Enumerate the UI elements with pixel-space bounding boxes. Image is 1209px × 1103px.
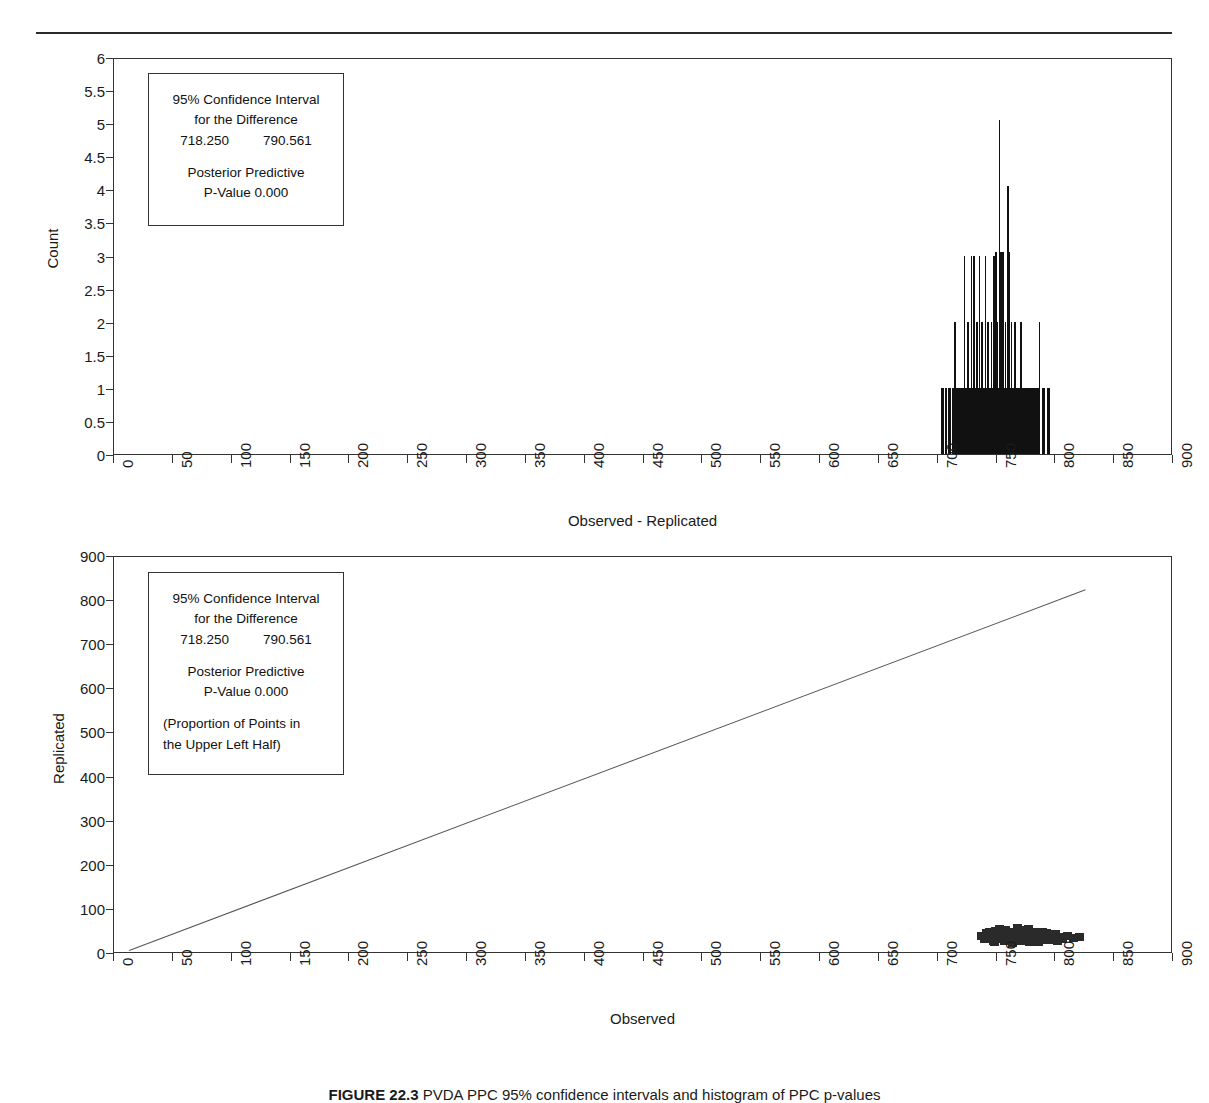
x-tick-mark bbox=[937, 953, 938, 961]
x-tick-mark bbox=[525, 953, 526, 961]
x-tick-label: 300 bbox=[472, 941, 489, 966]
x-tick-mark bbox=[643, 455, 644, 463]
x-tick-label: 300 bbox=[472, 443, 489, 468]
figure-caption: FIGURE 22.3 PVDA PPC 95% confidence inte… bbox=[0, 1086, 1209, 1103]
x-tick-mark bbox=[584, 953, 585, 961]
x-tick-label: 350 bbox=[531, 941, 548, 966]
x-tick-mark bbox=[172, 455, 173, 463]
proportion-note-line-1: (Proportion of Points in bbox=[149, 714, 343, 734]
x-tick-label: 400 bbox=[590, 443, 607, 468]
scatter-point bbox=[985, 928, 994, 936]
x-tick-mark bbox=[1113, 953, 1114, 961]
y-tick-label: 900 bbox=[57, 548, 105, 565]
ci-title-line-1: 95% Confidence Interval bbox=[149, 589, 343, 609]
y-tick-label: 1.5 bbox=[57, 347, 105, 364]
x-tick-mark bbox=[878, 953, 879, 961]
x-tick-label: 550 bbox=[766, 941, 783, 966]
y-tick-label: 500 bbox=[57, 724, 105, 741]
posterior-predictive-pvalue: P-Value 0.000 bbox=[149, 682, 343, 702]
y-tick-mark bbox=[106, 821, 113, 822]
histogram-annotation-box: 95% Confidence Interval for the Differen… bbox=[148, 73, 344, 226]
y-tick-mark bbox=[106, 455, 113, 456]
y-tick-mark bbox=[106, 556, 113, 557]
x-tick-mark bbox=[760, 455, 761, 463]
x-tick-mark bbox=[348, 455, 349, 463]
y-tick-mark bbox=[106, 389, 113, 390]
x-tick-mark bbox=[407, 953, 408, 961]
ci-lower-value: 718.250 bbox=[180, 630, 229, 650]
histogram-bar bbox=[973, 256, 975, 455]
x-tick-mark bbox=[643, 953, 644, 961]
x-tick-label: 500 bbox=[707, 941, 724, 966]
x-tick-label: 200 bbox=[354, 443, 371, 468]
y-tick-label: 4 bbox=[57, 182, 105, 199]
y-tick-label: 3 bbox=[57, 248, 105, 265]
scatter-y-axis-title: Replicated bbox=[50, 679, 67, 819]
x-tick-mark bbox=[760, 953, 761, 961]
x-tick-mark bbox=[407, 455, 408, 463]
x-tick-mark bbox=[996, 953, 997, 961]
x-tick-label: 500 bbox=[707, 443, 724, 468]
y-tick-label: 5 bbox=[57, 116, 105, 133]
y-tick-label: 400 bbox=[57, 768, 105, 785]
posterior-predictive-label: Posterior Predictive bbox=[149, 662, 343, 682]
histogram-bar bbox=[1039, 322, 1041, 454]
ci-title-line-1: 95% Confidence Interval bbox=[149, 90, 343, 110]
x-tick-label: 400 bbox=[590, 941, 607, 966]
y-tick-label: 6 bbox=[57, 50, 105, 67]
y-tick-label: 3.5 bbox=[57, 215, 105, 232]
y-tick-mark bbox=[106, 257, 113, 258]
x-tick-label: 750 bbox=[1002, 941, 1019, 966]
x-tick-mark bbox=[113, 455, 114, 463]
x-tick-label: 250 bbox=[413, 941, 430, 966]
scatter-point bbox=[1034, 938, 1043, 946]
scatter-point bbox=[1043, 936, 1052, 944]
y-tick-mark bbox=[106, 422, 113, 423]
y-tick-mark bbox=[106, 290, 113, 291]
x-tick-mark bbox=[937, 455, 938, 463]
x-tick-mark bbox=[819, 455, 820, 463]
ci-upper-value: 790.561 bbox=[263, 630, 312, 650]
y-tick-label: 800 bbox=[57, 592, 105, 609]
scatter-point bbox=[1020, 926, 1029, 934]
histogram-bar bbox=[1042, 388, 1045, 454]
y-tick-mark bbox=[106, 190, 113, 191]
scatter-point bbox=[990, 938, 999, 946]
x-tick-label: 0 bbox=[119, 460, 136, 468]
y-tick-mark bbox=[106, 644, 113, 645]
y-tick-mark bbox=[106, 953, 113, 954]
x-tick-mark bbox=[1172, 455, 1173, 463]
x-tick-label: 850 bbox=[1119, 941, 1136, 966]
y-tick-mark bbox=[106, 865, 113, 866]
histogram-bar bbox=[954, 322, 956, 454]
x-tick-label: 750 bbox=[1002, 443, 1019, 468]
x-tick-mark bbox=[466, 455, 467, 463]
y-tick-mark bbox=[106, 223, 113, 224]
posterior-predictive-label: Posterior Predictive bbox=[149, 163, 343, 183]
y-tick-label: 5.5 bbox=[57, 83, 105, 100]
y-tick-label: 200 bbox=[57, 856, 105, 873]
x-tick-label: 600 bbox=[825, 941, 842, 966]
x-tick-label: 650 bbox=[884, 941, 901, 966]
x-tick-mark bbox=[1113, 455, 1114, 463]
x-tick-label: 700 bbox=[943, 941, 960, 966]
x-tick-mark bbox=[231, 455, 232, 463]
y-tick-label: 600 bbox=[57, 680, 105, 697]
y-tick-label: 0.5 bbox=[57, 413, 105, 430]
y-tick-label: 700 bbox=[57, 636, 105, 653]
x-tick-label: 50 bbox=[178, 949, 195, 966]
ci-upper-value: 790.561 bbox=[263, 131, 312, 151]
y-tick-mark bbox=[106, 777, 113, 778]
ci-title-line-2: for the Difference bbox=[149, 609, 343, 629]
y-tick-mark bbox=[106, 732, 113, 733]
header-rule bbox=[36, 32, 1172, 34]
y-tick-mark bbox=[106, 600, 113, 601]
x-tick-label: 800 bbox=[1060, 941, 1077, 966]
ci-title-line-2: for the Difference bbox=[149, 110, 343, 130]
x-tick-label: 150 bbox=[296, 941, 313, 966]
x-tick-mark bbox=[172, 953, 173, 961]
ci-lower-value: 718.250 bbox=[180, 131, 229, 151]
x-tick-label: 600 bbox=[825, 443, 842, 468]
y-tick-mark bbox=[106, 157, 113, 158]
